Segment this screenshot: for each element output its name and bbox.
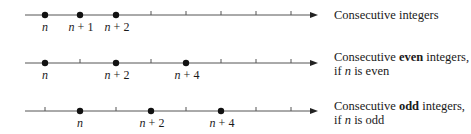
- label-n: n: [42, 68, 48, 83]
- dot-n: [42, 12, 48, 18]
- dot-n-plus-1: [77, 12, 83, 18]
- label-n: n: [42, 20, 48, 35]
- arrow-icon: [310, 108, 318, 114]
- arrow-icon: [310, 60, 318, 66]
- label-n-plus-2: n + 2: [105, 68, 130, 83]
- label-n-plus-4: n + 4: [175, 68, 200, 83]
- description-even: Consecutive even integers, if n is even: [334, 50, 469, 78]
- label-n-plus-2: n + 2: [140, 116, 165, 131]
- arrow-icon: [310, 12, 318, 18]
- label-n-plus-2: n + 2: [105, 20, 130, 35]
- number-line-even: [25, 59, 318, 66]
- dot-n-plus-2: [113, 12, 119, 18]
- label-n-plus-4: n + 4: [210, 116, 235, 131]
- number-line-consecutive: [25, 11, 318, 18]
- number-line-odd: [25, 107, 318, 114]
- description-odd: Consecutive odd integers, if n is odd: [334, 99, 465, 127]
- label-n-plus-1: n + 1: [69, 20, 94, 35]
- label-n: n: [77, 116, 83, 131]
- description-consecutive: Consecutive integers: [334, 8, 439, 22]
